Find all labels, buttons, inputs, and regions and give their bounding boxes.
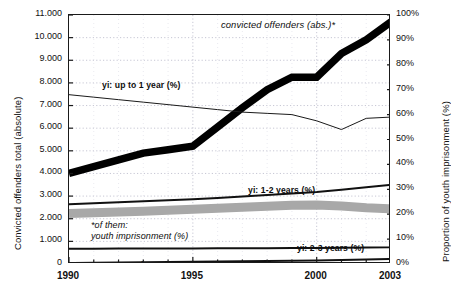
- y-left-tick-10000: 10.000: [16, 32, 62, 41]
- y-left-tick-5000: 5.000: [16, 145, 62, 154]
- x-tick-2003: 2003: [367, 271, 413, 281]
- y-right-tick-90pct: 90%: [396, 34, 436, 43]
- y-left-tick-1000: 1.000: [16, 235, 62, 244]
- chart-container: Convicted offenders total (absolute) Pro…: [0, 0, 451, 305]
- y-left-tick-6000: 6.000: [16, 122, 62, 131]
- y-left-tick-11000: 11.000: [16, 9, 62, 18]
- y-right-tick-60pct: 60%: [396, 109, 436, 118]
- annotation-line-1: *of them:: [91, 220, 128, 230]
- y-right-tick-20pct: 20%: [396, 208, 436, 217]
- x-tick-2000: 2000: [293, 271, 339, 281]
- y-right-tick-10pct: 10%: [396, 233, 436, 242]
- y-left-tick-3000: 3.000: [16, 190, 62, 199]
- series-label-1-2-years: yi: 1-2 years (%): [248, 185, 315, 195]
- series-yi: 1-2 years (%): [69, 185, 390, 204]
- annotation-youth-imprisonment-note: *of them: youth imprisonment (%): [91, 220, 188, 242]
- y-right-tick-70pct: 70%: [396, 84, 436, 93]
- annotation-line-2: youth imprisonment (%): [91, 231, 188, 241]
- series-yi: up to 1 year (%): [69, 95, 390, 130]
- y-left-tick-9000: 9.000: [16, 54, 62, 63]
- y-left-tick-0: 0: [16, 258, 62, 267]
- y-axis-title-right: Proportion of youth imprisonment (%): [440, 101, 451, 262]
- y-left-tick-8000: 8.000: [16, 77, 62, 86]
- y-right-tick-0pct: 0%: [396, 258, 436, 267]
- y-right-tick-100pct: 100%: [396, 9, 436, 18]
- plot-area: convicted offenders (abs.)* yi: up to 1 …: [68, 14, 390, 263]
- series-label-up-to-1-year: yi: up to 1 year (%): [102, 80, 180, 90]
- y-right-tick-50pct: 50%: [396, 134, 436, 143]
- y-right-tick-80pct: 80%: [396, 59, 436, 68]
- series-label-convicted-offenders: convicted offenders (abs.)*: [221, 19, 335, 30]
- series-*of them: youth imprisonment (%): [69, 205, 390, 213]
- y-left-tick-4000: 4.000: [16, 167, 62, 176]
- y-left-tick-7000: 7.000: [16, 100, 62, 109]
- y-right-tick-30pct: 30%: [396, 183, 436, 192]
- y-left-tick-2000: 2.000: [16, 213, 62, 222]
- x-tick-1990: 1990: [45, 271, 91, 281]
- series-label-2-3-years: yi: 2-3 years (%): [297, 243, 364, 253]
- x-tick-1995: 1995: [169, 271, 215, 281]
- y-right-tick-40pct: 40%: [396, 158, 436, 167]
